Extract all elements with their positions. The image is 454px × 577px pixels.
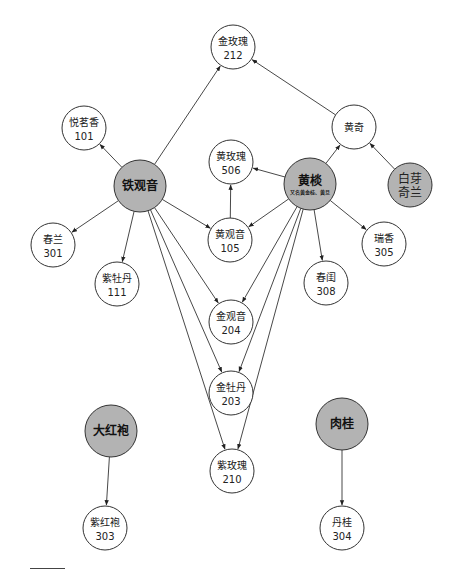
node-circle — [62, 106, 106, 150]
node-label: 丹桂 — [332, 516, 352, 528]
node-label: 金牡丹 — [216, 381, 246, 393]
node-label: 黄观音 — [215, 228, 245, 240]
node-chungui: 春闺308 — [304, 261, 348, 305]
node-label: 210 — [222, 474, 241, 485]
node-circle — [83, 506, 127, 550]
node-label: 又名黄金桂、黄旦 — [290, 189, 330, 196]
node-circle — [320, 506, 364, 550]
node-zihongpao: 紫红袍303 — [83, 506, 127, 550]
edge-huangdan-to-jinguanyin — [242, 207, 297, 302]
node-jinmudan: 金牡丹203 — [209, 371, 253, 415]
node-label: 506 — [221, 165, 240, 176]
node-circle — [209, 300, 253, 344]
node-dahongpao: 大红袍 — [85, 405, 137, 457]
node-label: 305 — [374, 247, 393, 258]
node-tieguanyin: 铁观音 — [114, 160, 166, 212]
node-label: 黄奇 — [344, 121, 364, 133]
tea-cultivar-pedigree-diagram: 金玫瑰212悦茗香101黄奇黄玫瑰506铁观音黄棪又名黄金桂、黄旦白芽奇兰黄观音… — [0, 0, 454, 577]
edge-tieguanyin-to-chunlan — [72, 201, 119, 233]
node-circle — [95, 262, 139, 306]
node-baiyaqilan: 白芽奇兰 — [388, 163, 432, 207]
node-circle — [208, 218, 252, 262]
node-jinguanyin: 金观音204 — [209, 300, 253, 344]
node-circle — [304, 261, 348, 305]
edge-tieguanyin-to-zimudan — [122, 211, 134, 261]
node-label: 204 — [221, 325, 240, 336]
edge-tieguanyin-to-huangguanyin — [162, 199, 210, 228]
node-label: 黄玫瑰 — [216, 150, 246, 162]
node-label: 101 — [74, 131, 93, 142]
node-yuemingxiang: 悦茗香101 — [62, 106, 106, 150]
node-jinmeigui: 金玫瑰212 — [211, 25, 255, 69]
node-label: 紫玫瑰 — [217, 459, 247, 471]
node-label: 紫牡丹 — [102, 272, 132, 284]
node-label: 铁观音 — [122, 178, 158, 193]
edge-tieguanyin-to-jinguanyin — [155, 208, 219, 303]
node-zimeigui: 紫玫瑰210 — [210, 449, 254, 493]
node-label: 金观音 — [216, 310, 246, 322]
node-huangmeigui: 黄玫瑰506 — [209, 140, 253, 184]
node-label: 黄棪 — [298, 173, 323, 188]
footnote-rule — [30, 568, 65, 569]
node-label: 奇兰 — [398, 186, 422, 200]
node-label: 春闺 — [316, 271, 336, 283]
edge-dahongpao-to-zihongpao — [106, 457, 109, 505]
node-label: 111 — [107, 287, 126, 298]
edge-huangqi-to-jinmeigui — [252, 60, 335, 115]
node-huangdan: 黄棪又名黄金桂、黄旦 — [284, 158, 336, 210]
node-label: 紫红袍 — [90, 516, 120, 528]
edge-baiyaqilan-to-huangqi — [370, 144, 395, 170]
node-label: 105 — [220, 243, 239, 254]
edge-huangdan-to-chungui — [314, 210, 322, 261]
node-huangqi: 黄奇 — [332, 105, 376, 149]
node-label: 212 — [223, 50, 242, 61]
node-label: 308 — [316, 286, 335, 297]
edge-huangdan-to-ruixiang — [330, 200, 366, 229]
node-circle — [211, 25, 255, 69]
node-label: 301 — [43, 248, 62, 259]
node-circle — [210, 449, 254, 493]
node-label: 白芽 — [398, 171, 422, 186]
node-ruixiang: 瑞香305 — [362, 222, 406, 266]
node-chunlan: 春兰301 — [31, 223, 75, 267]
edge-huangdan-to-huangguanyin — [249, 199, 289, 227]
node-label: 203 — [221, 396, 240, 407]
node-circle — [209, 371, 253, 415]
edge-tieguanyin-to-jinmeigui — [155, 66, 221, 164]
node-circle — [31, 223, 75, 267]
node-circle — [362, 222, 406, 266]
edge-tieguanyin-to-yuemingxiang — [100, 145, 122, 168]
node-label: 瑞香 — [374, 233, 394, 244]
edge-huangdan-to-huangqi — [326, 145, 340, 163]
node-label: 金玫瑰 — [218, 35, 248, 47]
node-label: 春兰 — [43, 233, 63, 245]
node-label: 304 — [332, 531, 351, 542]
node-zimudan: 紫牡丹111 — [95, 262, 139, 306]
node-rougui: 肉桂 — [316, 398, 368, 450]
nodes-layer: 金玫瑰212悦茗香101黄奇黄玫瑰506铁观音黄棪又名黄金桂、黄旦白芽奇兰黄观音… — [31, 25, 432, 550]
edge-huangdan-to-huangmeigui — [253, 168, 285, 177]
node-label: 大红袍 — [93, 423, 129, 438]
node-huangguanyin: 黄观音105 — [208, 218, 252, 262]
node-label: 肉桂 — [330, 416, 354, 431]
node-dangui: 丹桂304 — [320, 506, 364, 550]
node-label: 悦茗香 — [69, 116, 99, 128]
node-label: 303 — [95, 531, 114, 542]
node-circle — [209, 140, 253, 184]
